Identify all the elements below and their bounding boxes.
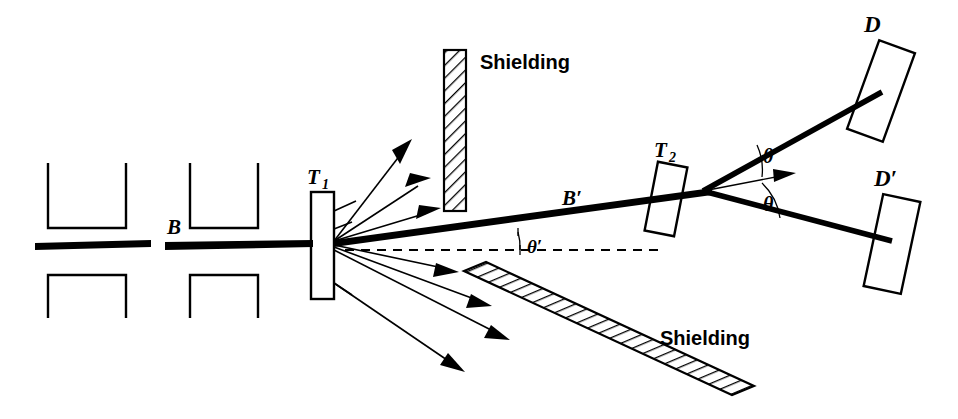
target-T1-label-subscript: 1 [322,177,329,192]
ray-stub-lower-a [334,283,352,295]
incident-beam-segment-2 [165,240,313,250]
incident-beam-segment-1 [35,240,151,250]
scattered-ray-up-1 [334,139,412,241]
detector-D-label: D [863,12,881,37]
collimator-2-upper [190,163,258,228]
target-T2-label: T [654,138,668,162]
scattering-diagram-root: B T 1 [0,0,958,419]
target-T1 [311,192,334,299]
shielding-vertical [444,50,466,211]
angle-theta-prime-marker [518,228,520,255]
collimator-2-lower [190,275,258,318]
shielding-diagonal-label: Shielding [660,327,750,349]
shielding-vertical-label: Shielding [480,51,570,73]
beam-label-B: B [166,215,181,239]
forward-axis-arrow [703,169,796,191]
scattered-ray-down-4 [334,283,465,372]
angle-theta-upper-label: θ [763,145,774,167]
scattered-beam-B-prime [334,188,712,247]
ray-stub-upper-b [334,222,352,229]
beam-to-detector-D-prime [703,191,892,241]
angle-theta-lower-label: θ [763,193,774,215]
diagram-canvas: B T 1 [0,0,958,419]
detector-D-prime [864,194,921,294]
beam-label-B-prime: B′ [561,186,582,210]
angle-theta-prime-label: θ′ [527,236,542,257]
ray-stub-upper-a [334,201,356,211]
target-T2-label-subscript: 2 [668,150,676,165]
target-T1-label: T [307,165,321,189]
collimator-1-upper [48,163,126,228]
detector-D-prime-label: D′ [873,166,897,191]
collimator-1-lower [48,275,126,318]
